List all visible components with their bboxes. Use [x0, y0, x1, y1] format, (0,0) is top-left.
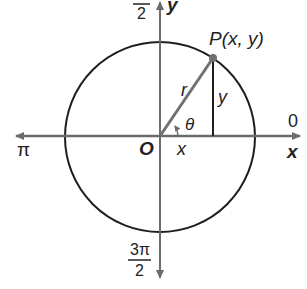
- svg-text:π: π: [138, 0, 149, 1]
- svg-text:3π: 3π: [130, 241, 150, 258]
- svg-text:2: 2: [137, 5, 146, 22]
- angle-3pi-over-2-label: 3π 2: [128, 241, 151, 279]
- angle-pi-label: π: [17, 139, 30, 160]
- radius-label: r: [181, 80, 188, 100]
- unit-circle-diagram: P(x, y) r y θ x O x y 0 π π 2 3π 2: [0, 0, 307, 289]
- y-axis-label: y: [166, 0, 179, 15]
- svg-text:2: 2: [135, 262, 144, 279]
- adjacent-label: x: [176, 139, 187, 159]
- opposite-label: y: [216, 87, 228, 107]
- point-p-label: P(x, y): [209, 28, 264, 49]
- x-axis-label: x: [286, 141, 299, 162]
- angle-pi-over-2-label: π 2: [133, 0, 150, 22]
- origin-label: O: [139, 138, 154, 159]
- angle-arc: [175, 126, 178, 136]
- angle-zero-label: 0: [288, 111, 298, 131]
- point-p: [209, 54, 217, 62]
- angle-label: θ: [185, 115, 195, 134]
